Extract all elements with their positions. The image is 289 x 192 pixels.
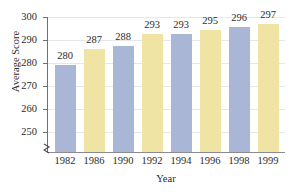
bar-chart: Average Score 300 290 280 270 260 250 28… (0, 0, 289, 192)
chart-title (0, 0, 289, 1)
bar-1982 (55, 65, 76, 152)
y-tick-260: 260 (43, 109, 48, 110)
bar-1999 (258, 24, 279, 152)
bar-1986 (84, 49, 105, 152)
y-tick-label-300: 300 (21, 12, 37, 23)
bar-1990 (113, 46, 134, 152)
bar-1996 (200, 30, 221, 152)
y-tick-280: 280 (43, 63, 48, 64)
y-tick-label-270: 270 (21, 81, 37, 92)
y-tick-270: 270 (43, 86, 48, 87)
y-tick-290: 290 (43, 40, 48, 41)
bar-1998 (229, 27, 250, 152)
x-tick-label-1999: 1999 (251, 156, 285, 167)
y-tick-label-290: 290 (21, 35, 37, 46)
y-tick-label-260: 260 (21, 104, 37, 115)
bar-value-1990: 288 (106, 32, 140, 43)
axis-break-icon (43, 143, 53, 154)
y-tick-300: 300 (43, 17, 48, 18)
bar-1994 (171, 34, 192, 152)
y-tick-250: 250 (43, 132, 48, 133)
y-tick-label-280: 280 (21, 58, 37, 69)
y-tick-label-250: 250 (21, 127, 37, 138)
x-axis-title: Year (47, 173, 285, 184)
bar-value-1999: 297 (251, 10, 285, 21)
bar-1992 (142, 34, 163, 152)
bar-value-1982: 280 (48, 51, 82, 62)
y-axis-title: Average Score (10, 14, 21, 110)
x-axis-line (47, 152, 285, 153)
plot-area: 300 290 280 270 260 250 280 287 288 293 … (47, 17, 285, 152)
